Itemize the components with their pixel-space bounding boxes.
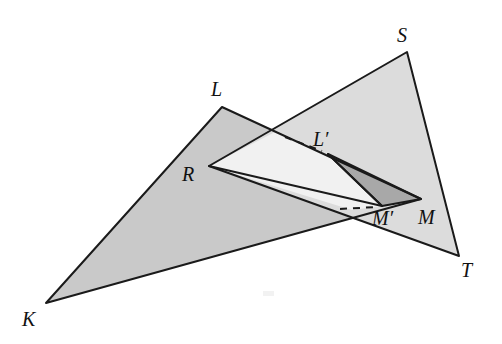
label-R: R	[181, 163, 194, 185]
label-T: T	[461, 259, 474, 281]
label-K: K	[21, 308, 37, 330]
scan-artifact	[263, 291, 274, 296]
label-L-prime: L′	[312, 128, 329, 150]
label-M: M	[417, 206, 436, 228]
geometry-diagram-svg: K L M R S T L′ M′	[0, 0, 502, 344]
label-S: S	[397, 24, 407, 46]
geometry-figure: K L M R S T L′ M′	[0, 0, 502, 344]
label-L: L	[210, 78, 222, 100]
label-M-prime: M′	[371, 207, 394, 229]
